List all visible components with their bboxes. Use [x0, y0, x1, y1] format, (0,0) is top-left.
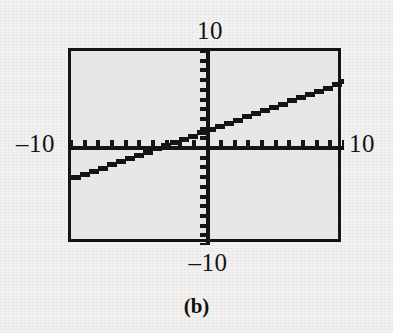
y-axis-max-label: 10: [175, 18, 245, 43]
figure-panel: 10 –10 10 –10 (b): [0, 0, 393, 333]
y-axis-max-label-text: 10: [197, 17, 223, 44]
x-axis-min-label: –10: [16, 131, 66, 156]
figure-caption: (b): [0, 294, 393, 319]
y-axis-min-label: –10: [173, 250, 243, 275]
axes-group: [71, 51, 344, 245]
x-axis-max-label-text: 10: [349, 130, 375, 157]
x-axis-max-label: 10: [349, 131, 393, 156]
plot-canvas: [71, 51, 344, 245]
y-axis-min-label-text: –10: [189, 249, 228, 276]
x-axis-min-label-text: –10: [16, 130, 55, 157]
plot-frame: [68, 48, 341, 242]
